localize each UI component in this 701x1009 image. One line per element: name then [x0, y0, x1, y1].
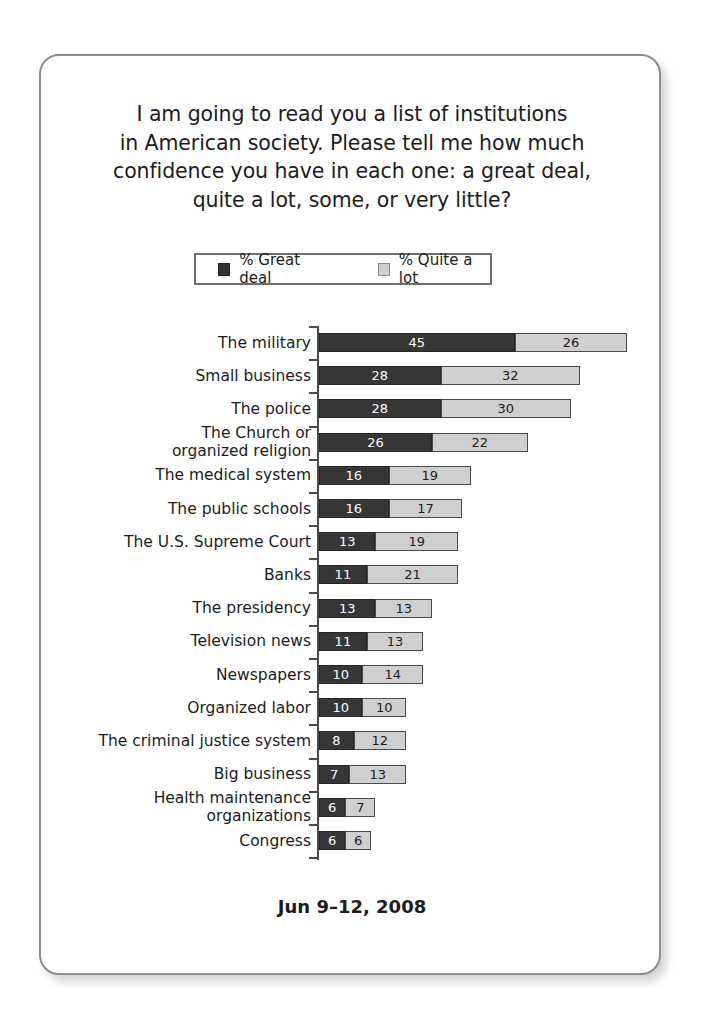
chart-row-label-line: The medical system	[155, 466, 311, 484]
stacked-bar: 1619	[319, 466, 471, 485]
bar-chart: The military4526Small business2832The po…	[41, 326, 663, 864]
chart-row-label-line: The Church or	[202, 424, 311, 442]
page-title: I am going to read you a list of institu…	[71, 100, 633, 214]
bar-segment-great-deal: 16	[319, 466, 389, 485]
chart-row-label-line: Small business	[195, 367, 311, 385]
stacked-bar: 1010	[319, 698, 406, 717]
bar-segment-great-deal: 8	[319, 731, 354, 750]
bar-segment-quite-a-lot: 6	[345, 831, 371, 850]
bar-segment-quite-a-lot: 7	[345, 798, 375, 817]
chart-row-label-line: Newspapers	[216, 666, 311, 684]
chart-row-label-line: The police	[231, 400, 311, 418]
bar-segment-great-deal: 28	[319, 366, 441, 385]
stacked-bar: 67	[319, 798, 375, 817]
axis-tick	[309, 525, 318, 527]
stacked-bar: 1014	[319, 665, 423, 684]
stacked-bar: 2832	[319, 366, 580, 385]
chart-row-label-line: Big business	[214, 765, 311, 783]
bar-segment-great-deal: 11	[319, 632, 367, 651]
stacked-bar: 66	[319, 831, 371, 850]
stacked-bar: 2622	[319, 433, 528, 452]
bar-segment-great-deal: 10	[319, 698, 362, 717]
legend-item-quite-a-lot: % Quite a lot	[378, 251, 490, 287]
chart-row-label: Health maintenanceorganizations	[61, 791, 311, 824]
chart-row-label-line: The presidency	[193, 599, 311, 617]
axis-tick	[309, 359, 318, 361]
stacked-bar: 1319	[319, 532, 458, 551]
bar-segment-quite-a-lot: 13	[375, 599, 431, 618]
question-line-4: quite a lot, some, or very little?	[71, 186, 633, 215]
bar-segment-quite-a-lot: 13	[367, 632, 423, 651]
legend-label-great-deal: % Great deal	[239, 251, 330, 287]
chart-row-label-line: Organized labor	[187, 699, 311, 717]
chart-legend: % Great deal % Quite a lot	[194, 253, 492, 285]
stacked-bar: 812	[319, 731, 406, 750]
chart-row-label-line: organizations	[207, 807, 311, 825]
chart-row: The U.S. Supreme Court1319	[41, 525, 663, 558]
screenshot-root: I am going to read you a list of institu…	[0, 0, 701, 1009]
legend-swatch-great-deal-icon	[218, 263, 230, 276]
bar-segment-great-deal: 6	[319, 831, 345, 850]
chart-row-label: The Church ororganized religion	[61, 426, 311, 459]
chart-row-label: Small business	[61, 359, 311, 392]
axis-tick	[309, 326, 318, 328]
chart-row-label-line: The public schools	[168, 500, 311, 518]
axis-tick	[309, 426, 318, 428]
chart-row-label-line: Health maintenance	[154, 789, 311, 807]
chart-row-label: The medical system	[61, 459, 311, 492]
chart-row-label: Newspapers	[61, 658, 311, 691]
axis-tick	[309, 758, 318, 760]
chart-row-label-line: Television news	[191, 632, 311, 650]
question-line-3: confidence you have in each one: a great…	[71, 157, 633, 186]
legend-item-great-deal: % Great deal	[218, 251, 331, 287]
axis-tick	[309, 658, 318, 660]
stacked-bar: 1313	[319, 599, 432, 618]
chart-row: The military4526	[41, 326, 663, 359]
question-line-1: I am going to read you a list of institu…	[71, 100, 633, 129]
bar-segment-great-deal: 26	[319, 433, 432, 452]
chart-row: The medical system1619	[41, 459, 663, 492]
bar-segment-quite-a-lot: 12	[354, 731, 406, 750]
bar-segment-great-deal: 45	[319, 333, 515, 352]
bar-segment-quite-a-lot: 14	[362, 665, 423, 684]
chart-row-label: Organized labor	[61, 691, 311, 724]
stacked-bar: 1113	[319, 632, 423, 651]
chart-row-label: The police	[61, 392, 311, 425]
chart-row-label-line: organized religion	[172, 442, 311, 460]
bar-segment-quite-a-lot: 21	[367, 565, 458, 584]
bar-segment-quite-a-lot: 26	[515, 333, 628, 352]
bar-segment-great-deal: 11	[319, 565, 367, 584]
stacked-bar: 713	[319, 765, 406, 784]
chart-row-label-line: The U.S. Supreme Court	[124, 533, 311, 551]
chart-row: The public schools1617	[41, 492, 663, 525]
chart-row-label: Television news	[61, 625, 311, 658]
bar-segment-quite-a-lot: 19	[375, 532, 458, 551]
bar-segment-quite-a-lot: 10	[362, 698, 405, 717]
axis-tick	[309, 392, 318, 394]
chart-row-label-line: The criminal justice system	[98, 732, 311, 750]
stacked-bar: 1121	[319, 565, 458, 584]
axis-tick	[309, 558, 318, 560]
chart-row-label: Congress	[61, 824, 311, 857]
axis-tick	[309, 625, 318, 627]
bar-segment-quite-a-lot: 22	[432, 433, 528, 452]
legend-swatch-quite-a-lot-icon	[378, 263, 390, 276]
bar-segment-great-deal: 7	[319, 765, 349, 784]
axis-tick	[309, 459, 318, 461]
stacked-bar: 2830	[319, 399, 571, 418]
bar-segment-quite-a-lot: 17	[389, 499, 463, 518]
chart-row-label: The presidency	[61, 592, 311, 625]
chart-card: I am going to read you a list of institu…	[39, 54, 661, 975]
bar-segment-quite-a-lot: 32	[441, 366, 580, 385]
bar-segment-great-deal: 10	[319, 665, 362, 684]
chart-row-label: Banks	[61, 558, 311, 591]
chart-row: Big business713	[41, 758, 663, 791]
bar-segment-quite-a-lot: 30	[441, 399, 571, 418]
axis-tick	[309, 857, 318, 859]
chart-row: The criminal justice system812	[41, 724, 663, 757]
stacked-bar: 1617	[319, 499, 462, 518]
chart-row: Health maintenanceorganizations67	[41, 791, 663, 824]
chart-row-label: Big business	[61, 758, 311, 791]
bar-segment-great-deal: 6	[319, 798, 345, 817]
chart-date-footer: Jun 9–12, 2008	[41, 896, 663, 917]
